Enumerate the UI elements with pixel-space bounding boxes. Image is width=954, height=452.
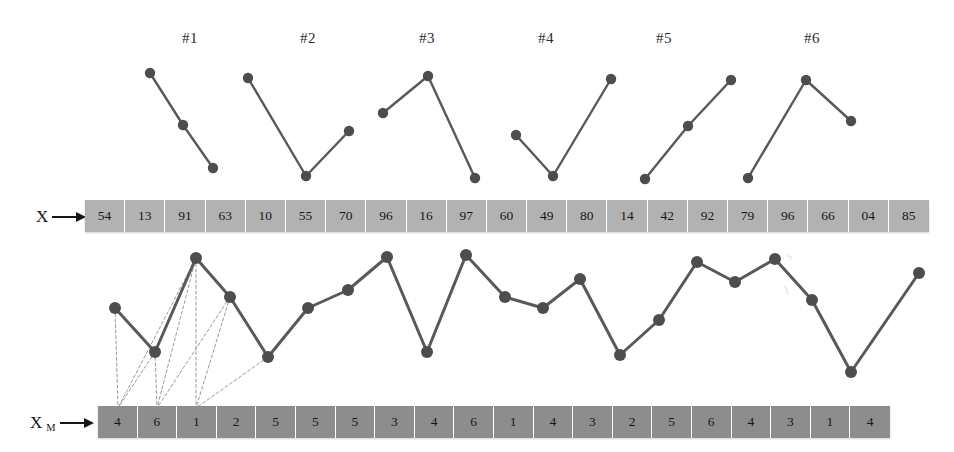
- group-3-point-0: [378, 108, 388, 118]
- main-point-8: [421, 346, 433, 358]
- group-5-point-1: [683, 121, 693, 131]
- x-cell-15: 92: [688, 200, 728, 232]
- xm-cell-6: 5: [336, 406, 376, 438]
- group-2-point-1: [301, 171, 311, 181]
- x-array-row: 5413916310557096169760498014429279966604…: [85, 200, 929, 232]
- group-segment-3: [383, 76, 475, 178]
- xm-cell-1: 6: [138, 406, 178, 438]
- group-1-point-0: [145, 68, 155, 78]
- xm-cell-7: 3: [375, 406, 415, 438]
- xm-cell-19: 4: [850, 406, 890, 438]
- main-point-11: [537, 302, 549, 314]
- xm-array-row: 46125553461432564314: [98, 406, 890, 438]
- xm-cell-3: 2: [217, 406, 257, 438]
- main-point-14: [653, 314, 665, 326]
- dashed-link-7: [196, 297, 230, 408]
- x-cell-12: 80: [567, 200, 607, 232]
- dashed-link-2: [118, 258, 196, 408]
- x-cell-13: 14: [607, 200, 647, 232]
- main-point-18: [806, 294, 818, 306]
- main-point-2: [190, 252, 202, 264]
- x-cell-11: 49: [527, 200, 567, 232]
- figure-canvas: #1#2#3#4#5#6 X 5413916310557096169760498…: [0, 0, 954, 452]
- xm-cell-8: 4: [415, 406, 455, 438]
- dashed-link-5: [157, 297, 230, 408]
- group-5-point-2: [726, 75, 736, 85]
- main-point-4: [262, 351, 274, 363]
- main-point-7: [381, 251, 393, 263]
- group-3-point-1: [423, 71, 433, 81]
- x-cell-20: 85: [889, 200, 929, 232]
- main-point-15: [691, 256, 703, 268]
- group-segment-2: [248, 78, 349, 176]
- main-point-3: [224, 291, 236, 303]
- x-cell-3: 63: [206, 200, 246, 232]
- group-3-point-2: [470, 173, 480, 183]
- dashed-link-8: [196, 357, 268, 408]
- x-label-text: X: [36, 207, 48, 227]
- main-point-0: [109, 302, 121, 314]
- group-4-point-0: [511, 130, 521, 140]
- x-cell-10: 60: [487, 200, 527, 232]
- x-cell-17: 96: [768, 200, 808, 232]
- xm-cell-17: 3: [771, 406, 811, 438]
- xm-axis-label: XM: [30, 413, 94, 433]
- x-cell-5: 55: [286, 200, 326, 232]
- main-point-6: [342, 284, 354, 296]
- group-6-point-1: [801, 75, 811, 85]
- xm-cell-0: 4: [98, 406, 138, 438]
- x-cell-1: 13: [125, 200, 165, 232]
- xm-cell-15: 6: [692, 406, 732, 438]
- xm-cell-9: 6: [454, 406, 494, 438]
- group-segment-6: [748, 80, 851, 178]
- group-6-point-0: [743, 173, 753, 183]
- main-point-12: [574, 273, 586, 285]
- main-signal-polyline: [115, 255, 919, 372]
- main-point-10: [499, 291, 511, 303]
- xm-cell-14: 5: [652, 406, 692, 438]
- xm-label-text: X: [30, 413, 42, 433]
- main-point-5: [302, 302, 314, 314]
- group-1-point-2: [208, 163, 218, 173]
- x-cell-16: 79: [728, 200, 768, 232]
- group-segment-4: [516, 79, 611, 176]
- x-cell-14: 42: [648, 200, 688, 232]
- dashed-link-3: [155, 352, 157, 408]
- group-5-point-0: [640, 174, 650, 184]
- right-arrow-icon: [60, 417, 94, 429]
- xm-cell-18: 1: [811, 406, 851, 438]
- group-6-point-2: [846, 116, 856, 126]
- main-point-9: [460, 249, 472, 261]
- xm-cell-16: 4: [732, 406, 772, 438]
- main-point-13: [614, 349, 626, 361]
- xm-cell-11: 4: [534, 406, 574, 438]
- xm-cell-12: 3: [573, 406, 613, 438]
- group-segment-lines: [145, 68, 856, 184]
- xm-label-subscript: M: [46, 422, 55, 433]
- group-4-point-1: [548, 171, 558, 181]
- main-point-16: [729, 276, 741, 288]
- main-point-17: [769, 253, 781, 265]
- x-cell-4: 10: [246, 200, 286, 232]
- main-signal-line: [109, 249, 925, 378]
- xm-cell-5: 5: [296, 406, 336, 438]
- x-cell-18: 66: [808, 200, 848, 232]
- x-cell-8: 16: [407, 200, 447, 232]
- group-4-point-2: [606, 74, 616, 84]
- x-cell-7: 96: [366, 200, 406, 232]
- xm-cell-2: 1: [177, 406, 217, 438]
- x-cell-19: 04: [849, 200, 889, 232]
- main-point-1: [149, 346, 161, 358]
- x-axis-label: X: [36, 207, 86, 227]
- xm-cell-13: 2: [613, 406, 653, 438]
- right-arrow-icon: [52, 211, 86, 223]
- x-cell-0: 54: [85, 200, 125, 232]
- xm-cell-4: 5: [256, 406, 296, 438]
- xm-cell-10: 1: [494, 406, 534, 438]
- x-cell-6: 70: [326, 200, 366, 232]
- main-point-20: [913, 267, 925, 279]
- dashed-link-0: [115, 308, 118, 408]
- main-point-19: [845, 366, 857, 378]
- group-2-point-2: [344, 126, 354, 136]
- group-2-point-0: [243, 73, 253, 83]
